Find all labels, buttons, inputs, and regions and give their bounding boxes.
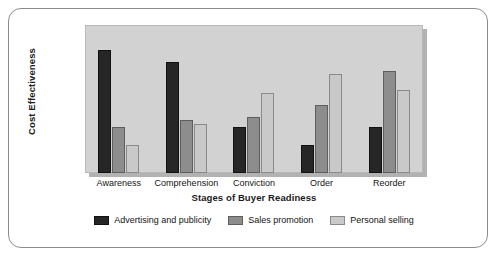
x-tick-label-reorder: Reorder [355, 175, 423, 191]
bar-group-reorder [355, 25, 423, 173]
legend-item-sales-promotion: Sales promotion [228, 215, 313, 225]
bar-chart: Cost Effectiveness [0, 0, 498, 259]
x-axis-tick-labels: Awareness Comprehension Conviction Order… [85, 175, 423, 191]
legend-label-personal-selling: Personal selling [350, 215, 414, 225]
legend-swatch-icon-advertising-and-publicity [94, 216, 109, 225]
bar-groups [85, 25, 423, 173]
legend-swatch-icon-personal-selling [330, 216, 345, 225]
bar-reorder-personal-selling [397, 90, 410, 173]
x-tick-label-conviction: Conviction [220, 175, 288, 191]
bar-comprehension-advertising-and-publicity [166, 62, 179, 173]
bar-conviction-advertising-and-publicity [233, 127, 246, 173]
legend-label-advertising-and-publicity: Advertising and publicity [114, 215, 211, 225]
bar-conviction-personal-selling [261, 93, 274, 173]
bar-reorder-advertising-and-publicity [369, 127, 382, 173]
bar-group-comprehension [153, 25, 221, 173]
bar-conviction-sales-promotion [247, 117, 260, 173]
legend-label-sales-promotion: Sales promotion [248, 215, 313, 225]
x-tick-label-comprehension: Comprehension [153, 175, 221, 191]
legend-swatch-icon-sales-promotion [228, 216, 243, 225]
x-axis-title: Stages of Buyer Readiness [85, 192, 423, 203]
legend-item-personal-selling: Personal selling [330, 215, 414, 225]
bar-order-personal-selling [329, 74, 342, 173]
bar-order-sales-promotion [315, 105, 328, 173]
bar-awareness-advertising-and-publicity [98, 50, 111, 173]
y-axis-title: Cost Effectiveness [26, 27, 37, 157]
bar-group-awareness [85, 25, 153, 173]
bar-reorder-sales-promotion [383, 71, 396, 173]
bar-group-conviction [220, 25, 288, 173]
bar-awareness-sales-promotion [112, 127, 125, 173]
bar-comprehension-sales-promotion [180, 120, 193, 173]
x-tick-label-order: Order [288, 175, 356, 191]
x-tick-label-awareness: Awareness [85, 175, 153, 191]
bar-group-order [288, 25, 356, 173]
chart-legend: Advertising and publicity Sales promotio… [85, 212, 423, 228]
bar-awareness-personal-selling [126, 145, 139, 173]
bar-comprehension-personal-selling [194, 124, 207, 173]
bar-order-advertising-and-publicity [301, 145, 314, 173]
legend-item-advertising-and-publicity: Advertising and publicity [94, 215, 211, 225]
